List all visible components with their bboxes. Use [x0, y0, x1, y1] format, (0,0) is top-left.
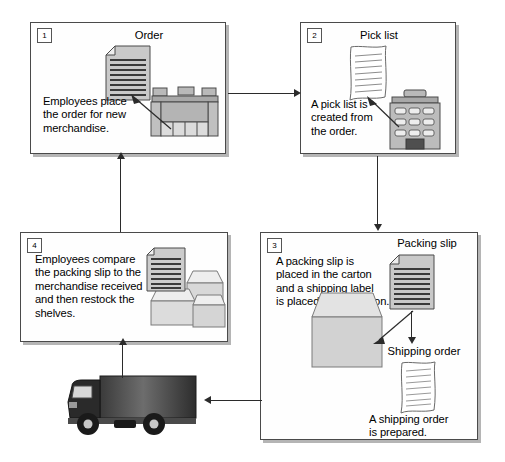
flow-2-to-3-line — [377, 156, 378, 226]
cartons-stack-icon — [145, 245, 227, 329]
flow-3-to-truck-line — [210, 400, 262, 401]
packing-slip-down-arrowhead — [408, 337, 416, 344]
flow-4-to-1-line — [120, 158, 121, 232]
flow-3-to-truck-arrowhead — [204, 396, 211, 404]
step-1-caption: Order — [109, 29, 189, 42]
wavy-document-icon — [396, 361, 440, 415]
step-3-text-2: A shipping order is prepared. — [369, 413, 479, 440]
step-number-3: 3 — [267, 238, 282, 253]
step-2-text: A pick list is created from the order. — [311, 98, 411, 138]
step-3-caption: Packing slip — [381, 237, 473, 250]
step-1-text: Employees place the order for new mercha… — [43, 95, 173, 135]
step-number-4: 4 — [27, 238, 42, 253]
flow-1-to-2-arrowhead — [294, 89, 301, 97]
step-3-caption-2: Shipping order — [371, 345, 477, 358]
step-number-1: 1 — [37, 28, 52, 43]
flow-truck-to-4-line — [122, 344, 123, 378]
delivery-truck-icon — [62, 372, 202, 438]
step-4-text: Employees compare the packing slip to th… — [35, 253, 160, 320]
step-panel-2: 2 Pick list — [300, 22, 456, 154]
step-panel-3: 3 Packing slip A packing slip is placed … — [260, 232, 478, 440]
step-number-2: 2 — [307, 28, 322, 43]
flow-2-to-3-arrowhead — [374, 224, 382, 231]
document-icon — [389, 254, 435, 310]
flow-1-to-2-line — [228, 93, 296, 94]
step-panel-1: 1 Order — [30, 22, 226, 154]
step-panel-4: 4 Employees compare the packing slip to … — [20, 232, 228, 342]
step-2-caption: Pick list — [339, 29, 419, 42]
diagram-canvas: 1 Order — [0, 0, 505, 462]
flow-truck-to-4-arrowhead — [119, 338, 127, 345]
packing-slip-down-line — [411, 311, 412, 339]
flow-4-to-1-arrowhead — [117, 152, 125, 159]
